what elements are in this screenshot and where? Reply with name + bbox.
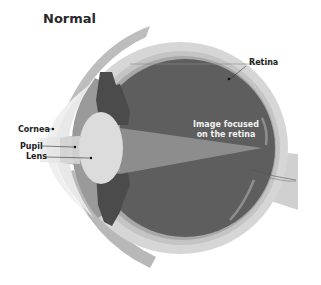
label-lens: Lens: [26, 152, 47, 161]
label-retina: Retina: [249, 58, 278, 67]
eye-diagram: [0, 0, 321, 285]
label-focus-line1: Image focused: [186, 120, 266, 130]
diagram-title: Normal: [43, 11, 96, 26]
lens: [79, 112, 123, 184]
label-pupil: Pupil: [20, 142, 43, 151]
label-focus-line2: on the retina: [186, 130, 266, 140]
label-cornea: Cornea: [18, 125, 50, 134]
label-focus: Image focused on the retina: [186, 120, 266, 140]
